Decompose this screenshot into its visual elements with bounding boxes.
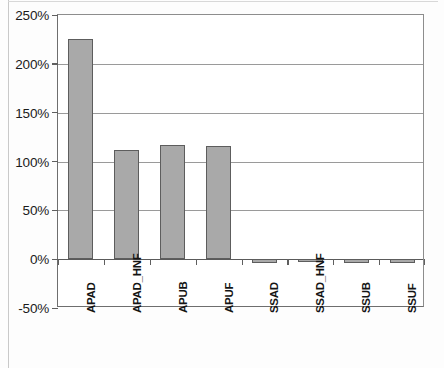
y-axis-tick-label: -50% [18,301,49,316]
x-axis-tick-label: APAD [85,282,97,313]
y-axis-tick-label: 0% [30,252,49,267]
bar [390,259,415,263]
gridline [58,64,423,65]
gridline [58,210,423,211]
bar [344,259,369,263]
bar-chart: 250%200%150%100%50%0%-50% APADAPAD_HNFAP… [0,0,444,368]
y-axis-tick [52,161,58,162]
x-axis-tick-label: SSUB [360,282,372,313]
x-axis-tick-label: APUF [223,283,235,313]
y-axis-tick-label: 100% [15,154,49,169]
bar [160,145,185,259]
x-axis-tick [196,259,197,265]
y-axis-tick-label: 150% [15,105,49,120]
bar [206,146,231,259]
y-axis-tick [52,63,58,64]
x-axis-tick-label: SSAD [268,282,280,313]
x-axis-tick [150,259,151,265]
x-axis-tick [424,259,425,265]
x-axis-tick [104,259,105,265]
gridline [58,162,423,163]
y-axis-tick-label: 50% [23,203,49,218]
y-axis-tick-label: 250% [15,8,49,23]
x-axis-tick-label: SSUF [406,284,418,313]
x-axis-tick-label: APUB [177,282,189,313]
bar [252,259,277,263]
y-axis-tick [52,210,58,211]
x-axis-tick [379,259,380,265]
scan-edge-border-top [8,1,438,2]
y-axis-tick-label: 200% [15,56,49,71]
plot-area: 250%200%150%100%50%0%-50% [57,14,424,307]
bar [114,150,139,259]
x-axis-tick [58,259,59,265]
gridline [58,15,423,16]
x-axis-tick [242,259,243,265]
y-axis-tick [52,112,58,113]
x-axis-tick-label: APAD_HNF [131,254,143,313]
x-axis-tick [333,259,334,265]
y-axis-tick [52,15,58,16]
gridline [58,113,423,114]
x-axis-tick [287,259,288,265]
y-axis-tick [52,308,58,309]
bar [68,39,93,259]
x-axis-tick-label: SSAD_HNF [314,253,326,313]
